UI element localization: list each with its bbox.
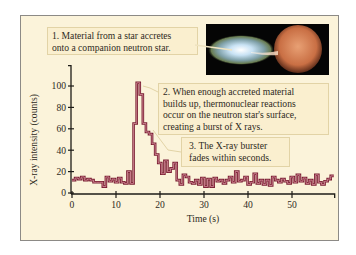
binary-star-illustration <box>206 24 329 75</box>
callout-2-line-4: creating a burst of X rays. <box>163 121 324 133</box>
callout-1-line-2: onto a companion neutron star. <box>52 42 193 54</box>
x-tick-label: 30 <box>199 199 209 210</box>
callout-2-line-2: builds up, thermonuclear reactions <box>163 98 324 110</box>
callout-accretion: 1. Material from a star accretes onto a … <box>47 27 198 55</box>
y-axis-title: X-ray intensity (counts) <box>28 94 40 186</box>
y-tick-label: 20 <box>56 166 66 177</box>
y-tick-label: 60 <box>56 123 66 134</box>
x-axis-title: Time (s) <box>187 213 219 225</box>
callout-2-line-3: occur on the neutron star's surface, <box>163 109 324 121</box>
x-tick-label: 0 <box>70 199 75 210</box>
y-tick-label: 80 <box>56 102 66 113</box>
y-tick-label: 40 <box>56 145 66 156</box>
callout-2-line-1: 2. When enough accreted material <box>163 86 324 98</box>
accretion-illustration <box>206 24 329 75</box>
x-tick-label: 20 <box>155 199 165 210</box>
x-tick-label: 10 <box>111 199 121 210</box>
y-tick-label: 100 <box>52 80 67 91</box>
callout-thermonuclear-burst: 2. When enough accreted material builds … <box>158 83 329 135</box>
callout-fading: 3. The X-ray burster fades within second… <box>181 137 290 167</box>
x-tick-label: 40 <box>243 199 253 210</box>
callout-3-line-2: fades within seconds. <box>189 152 285 164</box>
y-tick-label: 0 <box>61 187 66 198</box>
x-tick-label: 50 <box>287 199 297 210</box>
x-axis-line <box>71 194 335 198</box>
y-axis-line <box>68 66 71 194</box>
callout-3-line-1: 3. The X-ray burster <box>189 140 285 152</box>
callout-1-line-1: 1. Material from a star accretes <box>52 30 193 42</box>
